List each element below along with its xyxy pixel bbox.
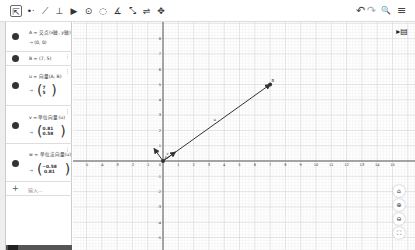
algebra-item-u[interactable]: u = 向量(A, B) ⋮ → ( ) 75 (6, 66, 72, 106)
slider-tool[interactable]: ⇌ (141, 5, 153, 17)
algebra-view: A = 交点(x轴, y轴) → (0, 0) B = (7, 5) ⋮ u =… (0, 22, 72, 250)
input-placeholder[interactable]: 输入... (28, 186, 43, 193)
keyboard-bar (6, 245, 72, 250)
visibility-toggle[interactable] (12, 33, 19, 40)
item-definition: u = 向量(A, B) (29, 73, 61, 79)
vector-values: −0.580.81 (41, 164, 58, 174)
more-icon[interactable]: ⋮ (65, 68, 70, 74)
x-tick-label: 14 (375, 163, 380, 167)
item-definition: v = 单位向量(u) (29, 114, 65, 120)
point-label: B (272, 78, 275, 83)
line-tool[interactable]: ⟋ (39, 5, 51, 17)
y-tick-label: 1 (159, 144, 161, 148)
circle-three-points-tool[interactable]: ◌ (97, 5, 109, 17)
x-tick-label: 8 (284, 163, 287, 167)
vector-values: 75 (40, 85, 48, 95)
more-icon[interactable]: ⋮ (65, 108, 70, 114)
redo-button[interactable]: ↷ (367, 4, 376, 17)
algebra-item-A[interactable]: A = 交点(x轴, y轴) → (0, 0) (6, 22, 72, 52)
x-tick-label: -2 (131, 163, 135, 167)
visibility-toggle[interactable] (12, 122, 19, 129)
x-tick-label: 9 (300, 163, 303, 167)
style-bar-toggle[interactable]: ▸▤ (396, 27, 408, 37)
add-icon[interactable]: + (12, 184, 19, 193)
toolbar: ⇱•ᐧ⟋⊥▶⊙◌∡⤡⇌✥ ↶ ↷ 🔍 ≡ (0, 0, 415, 22)
y-tick-label: 3 (159, 113, 161, 117)
point-label: A (165, 155, 168, 160)
y-tick-label: 8 (159, 37, 162, 41)
x-tick-label: -5 (85, 163, 89, 167)
algebra-item-w[interactable]: w = 单位法向量(u) ⋮ → ( ) −0.580.81 (6, 144, 72, 182)
item-arrow: → (29, 168, 33, 173)
y-tick-label: 2 (159, 129, 161, 133)
vector-values: 0.810.58 (41, 126, 55, 136)
x-tick-label: 15 (390, 163, 395, 167)
item-definition: A = 交点(x轴, y轴) (29, 29, 71, 35)
home-button[interactable]: ⌂ (393, 185, 405, 197)
y-tick-label: -1 (157, 175, 161, 179)
x-tick-label: -1 (146, 163, 150, 167)
y-tick-label: -2 (157, 190, 161, 194)
undo-button[interactable]: ↶ (356, 4, 365, 17)
point-tool[interactable]: •ᐧ (25, 5, 37, 17)
x-tick-label: 7 (269, 163, 271, 167)
x-tick-label: 12 (344, 163, 349, 167)
angle-tool[interactable]: ∡ (112, 5, 124, 17)
x-tick-label: 1 (177, 163, 179, 167)
graphics-view[interactable]: -5-4-3-2-112345678910111213141512345678-… (73, 22, 415, 250)
main-menu-button[interactable]: ≡ (397, 4, 406, 17)
perpendicular-tool[interactable]: ⊥ (54, 5, 66, 17)
svg-text:0: 0 (159, 163, 162, 167)
search-button[interactable]: 🔍 (381, 4, 391, 17)
move-tool[interactable]: ⇱ (10, 5, 22, 17)
x-tick-label: 2 (192, 163, 194, 167)
point-A[interactable] (161, 159, 165, 163)
zoom-in-button[interactable]: ⊕ (393, 199, 405, 211)
fullscreen-button[interactable]: ⛶ (393, 227, 405, 239)
zoom-out-button[interactable]: ⊖ (393, 213, 405, 225)
item-arrow: → (29, 130, 33, 135)
visibility-toggle[interactable] (12, 82, 19, 89)
y-tick-label: -3 (157, 205, 161, 209)
visibility-toggle[interactable] (12, 55, 19, 62)
point-B[interactable] (268, 83, 272, 87)
move-graphics-tool[interactable]: ✥ (155, 5, 167, 17)
x-tick-label: 4 (223, 163, 226, 167)
x-tick-label: -3 (115, 163, 119, 167)
algebra-input-row[interactable]: + 输入... (6, 182, 72, 196)
x-tick-label: 10 (314, 163, 319, 167)
algebra-item-v[interactable]: v = 单位向量(u) ⋮ → ( ) 0.810.58 (6, 106, 72, 144)
more-icon[interactable]: ⋮ (65, 146, 70, 152)
x-tick-label: 13 (360, 163, 365, 167)
vector-u[interactable] (163, 85, 270, 162)
vector-label: u (214, 117, 217, 122)
keyboard-button[interactable] (8, 245, 18, 250)
coordinate-plane[interactable]: -5-4-3-2-112345678910111213141512345678-… (73, 22, 415, 250)
x-tick-label: 3 (208, 163, 210, 167)
y-tick-label: 5 (159, 83, 161, 87)
reflect-tool[interactable]: ⤡ (126, 5, 138, 17)
x-tick-label: 6 (254, 163, 257, 167)
circle-tool[interactable]: ⊙ (83, 5, 95, 17)
x-tick-label: 11 (329, 163, 334, 167)
more-icon[interactable]: ⋮ (65, 53, 70, 59)
y-tick-label: -5 (157, 236, 161, 240)
item-value: → (0, 0) (29, 40, 47, 45)
y-tick-label: 7 (159, 52, 161, 56)
x-tick-label: 5 (238, 163, 240, 167)
item-definition: B = (7, 5) (29, 56, 51, 61)
x-tick-label: -4 (100, 163, 104, 167)
polygon-tool[interactable]: ▶ (68, 5, 80, 17)
vector-label: w (156, 149, 160, 154)
visibility-toggle[interactable] (12, 160, 19, 167)
algebra-item-B[interactable]: B = (7, 5) ⋮ (6, 52, 72, 66)
item-arrow: → (29, 88, 33, 93)
